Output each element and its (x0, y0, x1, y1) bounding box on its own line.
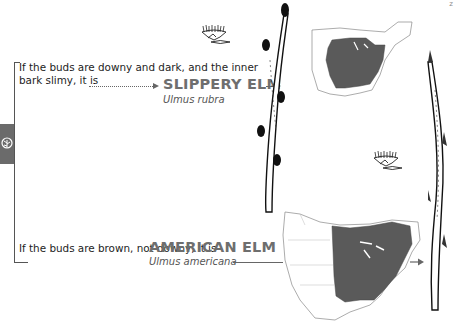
american-elm-range-map (283, 212, 420, 320)
elm-tree-silhouette-icon (202, 25, 230, 44)
elm-tree-silhouette-icon (374, 151, 402, 170)
american-elm-twig-illustration (428, 50, 447, 310)
slippery-elm-twig-illustration (257, 3, 289, 212)
slippery-elm-range-map (312, 22, 412, 96)
map-to-twig-arrowhead (418, 259, 424, 266)
illustrations-layer (0, 0, 455, 323)
